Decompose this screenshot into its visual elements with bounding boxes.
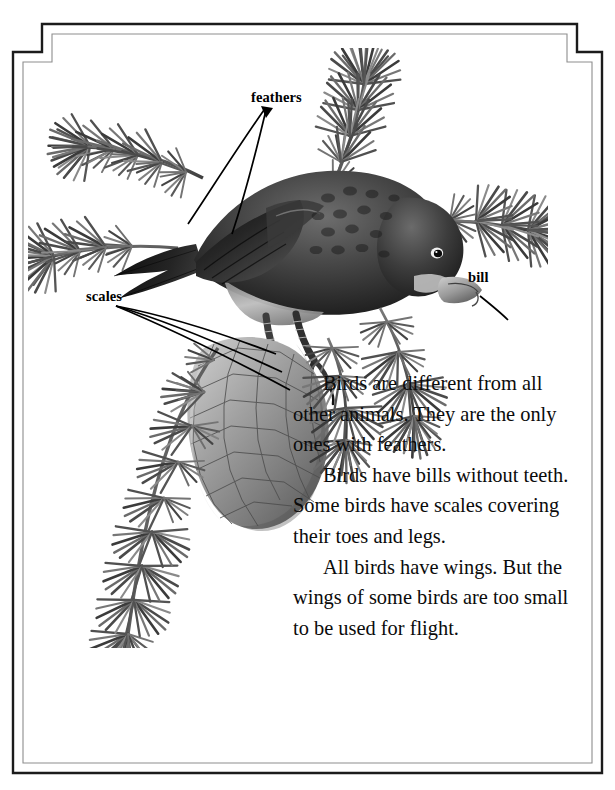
callout-label-feathers: feathers (251, 89, 302, 106)
callout-label-bill: bill (468, 269, 489, 286)
page-canvas: feathers scales bill Birds are different… (0, 0, 615, 790)
spruce-spray-upper-left (41, 109, 203, 203)
callout-label-scales: scales (86, 288, 122, 305)
body-paragraph-1: Birds are different from all other anima… (293, 368, 583, 460)
bird-eye (431, 248, 443, 259)
body-paragraph-3: All birds have wings. But the wings of s… (293, 552, 583, 644)
body-paragraph-2: Birds have bills without teeth. Some bir… (293, 460, 583, 552)
body-text-block: Birds are different from all other anima… (293, 368, 583, 643)
spruce-spray-lower-left (80, 343, 224, 648)
leader-bill (480, 296, 508, 320)
